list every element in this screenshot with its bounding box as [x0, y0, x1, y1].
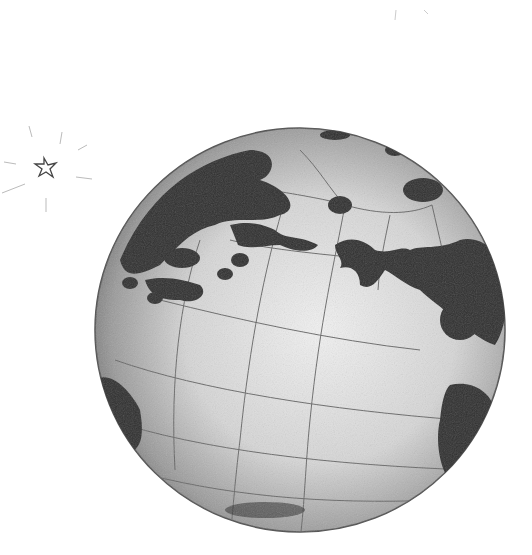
- star-icon: [2, 126, 92, 212]
- sketch-canvas: [0, 0, 532, 555]
- globe: [90, 120, 510, 540]
- stray-marks: [395, 10, 428, 20]
